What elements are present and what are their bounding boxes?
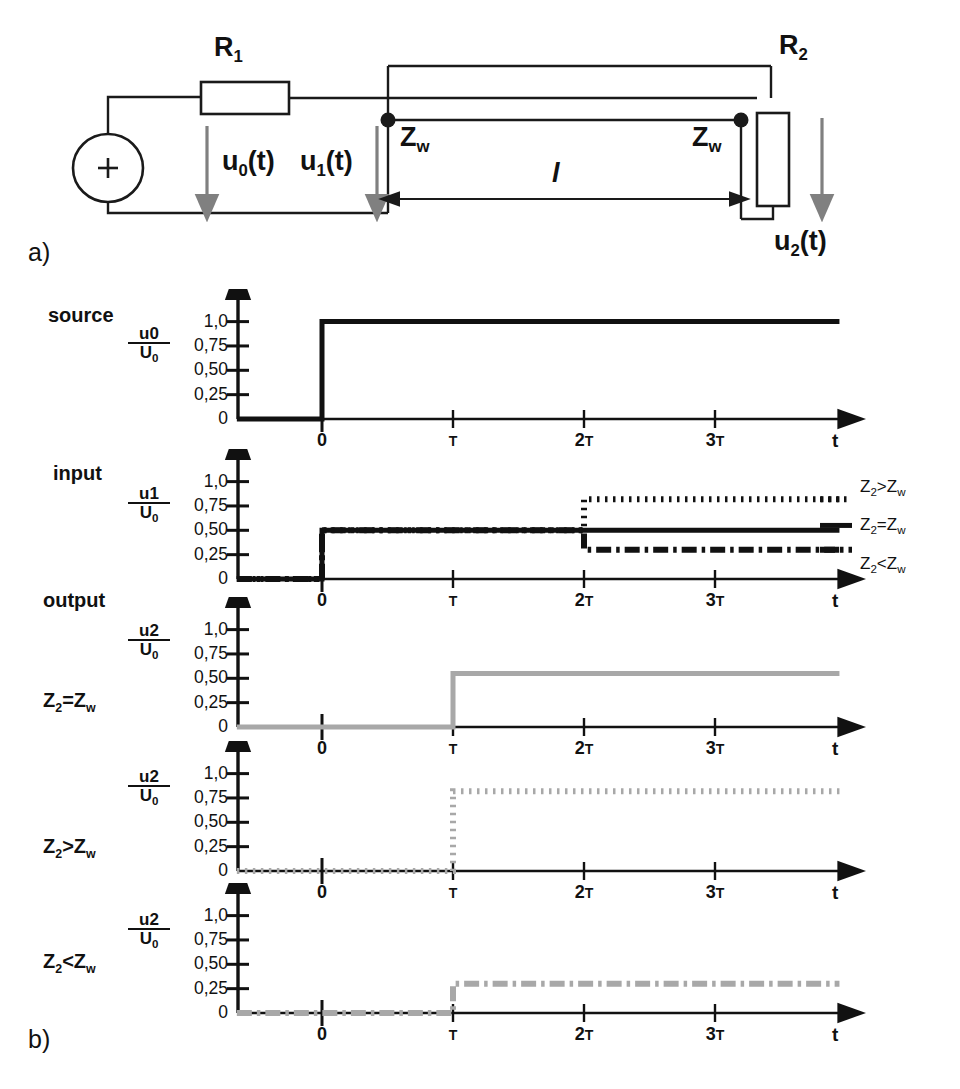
y-tick-label: 0,75	[150, 931, 228, 949]
plot-canvas-host: 00,250,500,751,00T2T3Tt00,250,500,751,00…	[0, 285, 960, 1089]
circuit-wires	[73, 66, 789, 219]
y-tick-label: 0,75	[150, 337, 228, 355]
resistor-r2-label: R2	[779, 32, 808, 64]
x-tick-label: T	[423, 1025, 483, 1043]
u1-voltage-label: u1(t)	[300, 148, 353, 180]
y-tick-label: 0,50	[150, 813, 228, 831]
x-tick-label: 3T	[685, 1025, 745, 1043]
y-tick-label: 0,50	[150, 669, 228, 687]
y-tick-label: 1,0	[150, 313, 228, 331]
junction-dot-left	[381, 113, 396, 128]
y-tick-label: 0,25	[150, 694, 228, 712]
resistor-r1-label: R1	[214, 34, 243, 66]
series-trace	[237, 673, 840, 727]
y-tick-label: 0	[150, 410, 228, 428]
y-tick-label: 0,25	[150, 386, 228, 404]
x-tick-label: 0	[292, 1025, 352, 1043]
zw-label-right: Zw	[692, 124, 722, 156]
series-trace	[237, 499, 840, 579]
series-trace	[237, 791, 840, 871]
x-tick-label: 0	[292, 431, 352, 449]
x-tick-label: 2T	[554, 1025, 614, 1043]
circuit-diagram-panel: R1 R2 u0(t) u1(t) u2(t) Zw Zw l a)	[0, 0, 960, 285]
y-tick-label: 1,0	[150, 621, 228, 639]
y-tick-label: 0,25	[150, 980, 228, 998]
y-tick-label: 1,0	[150, 473, 228, 491]
x-tick-label: 2T	[554, 431, 614, 449]
source-plus-icon	[98, 158, 118, 178]
panel-a-letter: a)	[28, 240, 50, 265]
u0-voltage-label: u0(t)	[222, 148, 275, 180]
x-axis-name: t	[832, 1024, 838, 1046]
y-tick-label: 0	[150, 718, 228, 736]
x-tick-label: 3T	[685, 431, 745, 449]
series-trace	[237, 530, 840, 579]
y-tick-label: 0,75	[150, 645, 228, 663]
y-tick-label: 1,0	[150, 765, 228, 783]
y-tick-label: 0,50	[150, 955, 228, 973]
y-tick-label: 0	[150, 570, 228, 588]
y-tick-label: 1,0	[150, 907, 228, 925]
resistor-r2-body	[757, 113, 789, 206]
y-tick-label: 0,50	[150, 521, 228, 539]
y-tick-label: 0,75	[150, 497, 228, 515]
y-tick-label: 0,25	[150, 546, 228, 564]
u2-voltage-label: u2(t)	[774, 228, 827, 260]
waveform-plots-panel: source u0 U0 input u1 U0 Z2>Zw Z2=Zw Z2<…	[0, 285, 960, 1089]
y-tick-label: 0,75	[150, 789, 228, 807]
y-tick-label: 0	[150, 862, 228, 880]
zw-label-left: Zw	[400, 124, 430, 156]
y-tick-label: 0,25	[150, 838, 228, 856]
series-trace	[237, 530, 840, 579]
y-tick-label: 0	[150, 1004, 228, 1022]
junction-dot-right	[734, 113, 749, 128]
y-tick-label: 0,50	[150, 361, 228, 379]
x-tick-label: T	[423, 431, 483, 449]
line-length-label: l	[552, 160, 560, 187]
resistor-r1-body	[201, 82, 289, 114]
series-trace	[237, 984, 840, 1013]
series-trace	[237, 322, 840, 419]
